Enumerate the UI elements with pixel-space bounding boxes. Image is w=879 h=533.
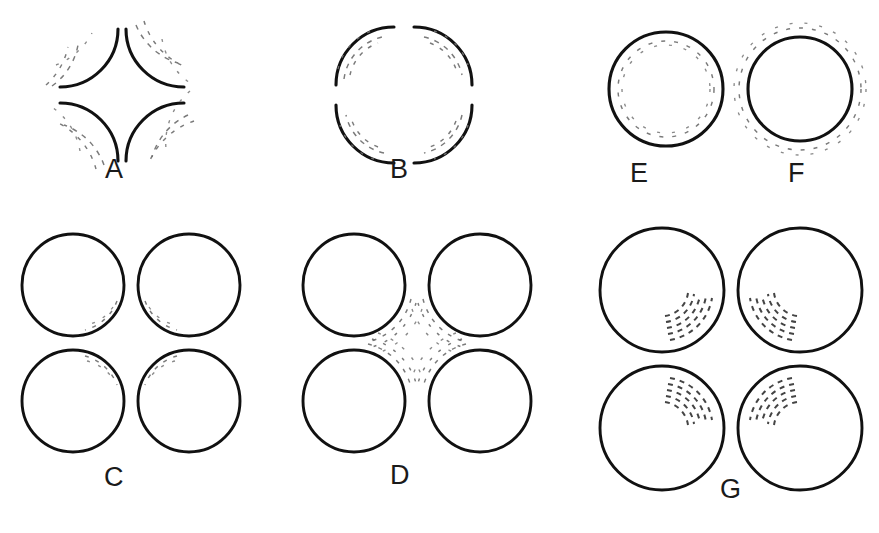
circle-bottom-left <box>303 333 422 452</box>
faint-arc-top-right-1 <box>136 25 178 63</box>
panel-c-circles <box>22 234 240 452</box>
panel-e-graphic <box>596 18 741 178</box>
arc-bottom-right <box>414 105 472 163</box>
panel-b: B <box>282 0 532 200</box>
faint-outer-arc-2 <box>418 339 462 383</box>
circle-bottom-left <box>22 350 124 452</box>
panel-label-c: C <box>104 464 124 491</box>
circle-outline <box>429 234 531 336</box>
circle-outline <box>748 37 852 141</box>
panel-e-circle-group <box>609 32 723 146</box>
circle-top-right <box>138 234 240 336</box>
faint-arc-bottom-right-2 <box>430 121 456 147</box>
texture-arc-3 <box>762 390 795 423</box>
faint-arc-top-right-1 <box>424 37 462 75</box>
faint-arc-top-right-2 <box>430 43 456 69</box>
texture-arc-2 <box>668 384 706 422</box>
faint-outer-arc-2 <box>372 339 416 383</box>
arc-bottom-right <box>126 103 184 161</box>
texture-arc-4 <box>768 294 796 322</box>
panel-a-graphic <box>0 0 250 200</box>
panel-c: C <box>8 218 268 498</box>
panel-a-arcs <box>46 21 194 169</box>
panel-f-circle-group <box>734 23 866 155</box>
circle-top-left <box>303 234 422 353</box>
faint-arc-bottom-left-3 <box>340 125 374 159</box>
circle-top-right <box>412 234 531 353</box>
panel-label-d: D <box>390 462 410 489</box>
faint-arc-top-left-2 <box>46 47 68 85</box>
faint-outer-arc-2 <box>372 303 416 347</box>
arc-top-right <box>126 29 184 87</box>
circle-outline <box>303 234 405 336</box>
panel-d-circles <box>303 234 531 452</box>
texture-arc-2 <box>756 296 794 334</box>
panel-d-graphic <box>294 218 556 498</box>
circle-outline <box>22 350 124 452</box>
arc-top-right <box>414 27 472 85</box>
faint-outer-arc-3 <box>412 309 456 353</box>
faint-arc-top-left-1 <box>344 37 382 79</box>
faint-arc-bottom-right-1 <box>424 115 462 153</box>
faint-arc-bottom-left-2 <box>54 121 96 169</box>
texture-arc-4 <box>666 396 694 424</box>
faint-arc-bottom-right-3 <box>434 125 468 159</box>
faint-arc-bottom-left-3 <box>52 107 80 151</box>
texture-arc-4 <box>666 294 694 322</box>
circle-outline <box>429 350 531 452</box>
texture-arc-3 <box>667 295 700 328</box>
faint-outer-ring-2 <box>734 23 866 155</box>
faint-arc-top-right-3 <box>162 39 190 83</box>
texture-arc-3 <box>667 390 700 423</box>
panel-label-g: G <box>720 476 742 503</box>
faint-arc-bottom-right-2 <box>148 121 194 165</box>
panel-e: E <box>596 18 741 178</box>
texture-arc-4 <box>768 396 796 424</box>
faint-arc-bottom-left-1 <box>346 115 384 153</box>
figure-canvas: A <box>0 0 879 533</box>
texture-arc-2 <box>668 296 706 334</box>
faint-arc-top-right-2 <box>144 21 186 67</box>
panel-f-graphic <box>738 18 879 178</box>
circle-top-right <box>738 228 862 352</box>
circle-outline <box>138 350 240 452</box>
circle-outline <box>609 32 723 146</box>
faint-arc-top-right-3 <box>434 31 468 65</box>
circle-outline <box>22 234 124 336</box>
circle-outline <box>138 234 240 336</box>
faint-inner-ring <box>618 41 714 137</box>
circle-outline <box>738 366 862 490</box>
panel-label-f: F <box>788 160 805 187</box>
circle-outline <box>738 228 862 352</box>
panel-label-b: B <box>390 156 409 183</box>
panel-g: G <box>592 218 879 518</box>
panel-label-a: A <box>105 156 124 183</box>
faint-outer-arc-3 <box>378 309 422 353</box>
faint-arc-top-left-2 <box>350 43 378 75</box>
faint-outer-arc-2 <box>418 303 462 347</box>
panel-b-arcs <box>336 27 472 163</box>
circle-top-left <box>600 228 724 352</box>
arc-bottom-left <box>336 105 394 163</box>
faint-arc-bottom-left-2 <box>352 121 378 147</box>
circle-outline <box>600 228 724 352</box>
circle-bottom-left <box>600 366 724 490</box>
faint-arc-top-left-1 <box>52 45 78 86</box>
faint-inner-ring-2 <box>622 45 710 133</box>
texture-arc-3 <box>762 295 795 328</box>
panel-g-circles <box>600 228 862 490</box>
arc-bottom-left <box>60 103 118 161</box>
panel-label-e: E <box>630 160 649 187</box>
circle-top-left <box>22 234 124 336</box>
circle-outline <box>600 366 724 490</box>
texture-arc-2 <box>756 384 794 422</box>
faint-outer-ring <box>739 28 861 150</box>
panel-a: A <box>0 0 250 200</box>
circle-bottom-right <box>412 333 531 452</box>
circle-bottom-right <box>138 350 240 452</box>
panel-c-graphic <box>8 218 268 498</box>
panel-d: D <box>294 218 556 498</box>
circle-bottom-right <box>738 366 862 490</box>
panel-f: F <box>738 18 879 178</box>
panel-g-graphic <box>592 218 879 518</box>
